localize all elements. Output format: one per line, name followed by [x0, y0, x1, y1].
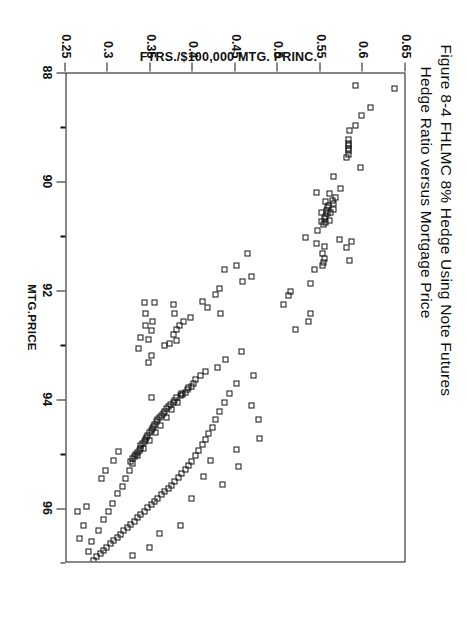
scatter-point	[199, 298, 205, 304]
scatter-point	[95, 527, 101, 533]
scatter-point	[302, 234, 308, 240]
scatter-point	[250, 372, 256, 378]
scatter-point	[233, 446, 239, 452]
scatter-point	[391, 85, 397, 91]
scatter-point	[308, 280, 314, 286]
scatter-point	[74, 508, 80, 514]
scatter-point	[226, 390, 232, 396]
scatter-point	[90, 557, 96, 561]
x-tick-minor	[60, 126, 65, 127]
scatter-point	[126, 467, 132, 473]
scatter-point	[185, 384, 191, 390]
scatter-point	[212, 416, 218, 422]
scatter-point	[110, 457, 116, 463]
scatter-point	[122, 475, 128, 481]
x-tick-major	[56, 508, 65, 509]
scatter-point	[80, 522, 86, 528]
scatter-point	[308, 310, 314, 316]
scatter-point	[142, 310, 148, 316]
scatter-point	[187, 314, 193, 320]
scatter-point	[221, 399, 227, 405]
figure-title-line-2: Hedge Ratio versus Mortgage Price	[415, 44, 435, 396]
scatter-point	[145, 359, 151, 365]
scatter-point	[76, 535, 82, 541]
scatter-point	[346, 257, 352, 263]
scatter-point	[140, 445, 146, 451]
x-tick-major	[56, 290, 65, 291]
scatter-point	[359, 112, 365, 118]
scatter-point	[105, 508, 111, 514]
x-tick-major	[56, 399, 65, 400]
scatter-point	[170, 301, 176, 307]
scatter-point	[352, 82, 358, 88]
scatter-point	[255, 416, 261, 422]
x-axis-title: MTG.PRICE	[25, 72, 37, 562]
scatter-point	[145, 336, 151, 342]
x-tick-label: 88	[39, 65, 53, 79]
scatter-point	[217, 310, 223, 316]
scatter-point	[343, 244, 349, 250]
scatter-point	[337, 185, 343, 191]
scatter-point	[209, 424, 215, 430]
scatter-point	[318, 218, 324, 224]
scatter-point	[244, 250, 250, 256]
scatter-point	[146, 437, 152, 443]
scatter-point	[207, 457, 213, 463]
scatter-point	[119, 483, 125, 489]
scatter-point	[326, 190, 332, 196]
y-tick-major	[404, 62, 405, 71]
scatter-point	[152, 429, 158, 435]
scatter-point	[83, 503, 89, 509]
scatter-point	[177, 522, 183, 528]
scatter-point	[235, 463, 241, 469]
rotated-figure-stage: Figure 8-4 FHLMC 8% Hedge Using Note Fut…	[0, 0, 467, 639]
scatter-point	[163, 414, 169, 420]
scatter-point	[168, 406, 174, 412]
scatter-point	[100, 516, 106, 522]
scatter-point	[129, 552, 135, 558]
scatter-point	[98, 475, 104, 481]
scatter-point	[223, 356, 229, 362]
scatter-point	[172, 310, 178, 316]
scatter-point	[114, 490, 120, 496]
scatter-point	[346, 127, 352, 133]
scatter-point	[221, 266, 227, 272]
scatter-point	[280, 301, 286, 307]
scatter-point	[233, 262, 239, 268]
scatter-point	[157, 422, 163, 428]
scatter-point	[148, 394, 154, 400]
scatter-point	[88, 538, 94, 544]
x-tick-minor	[60, 344, 65, 345]
scatter-point	[336, 236, 342, 242]
scatter-point	[189, 495, 195, 501]
scatter-point	[115, 448, 121, 454]
scatter-point	[285, 292, 291, 298]
scatter-point	[179, 391, 185, 397]
scatter-point	[314, 227, 320, 233]
scatter-point	[129, 460, 135, 466]
scatter-point	[311, 266, 317, 272]
scatter-point	[135, 345, 141, 351]
scatter-point	[216, 408, 222, 414]
scatter-point	[174, 399, 180, 405]
scatter-point	[102, 467, 108, 473]
scatter-point	[138, 334, 144, 340]
scatter-points-layer	[66, 73, 404, 561]
scatter-point	[149, 318, 155, 324]
scatter-point	[161, 342, 167, 348]
y-tick-label: 0.65	[398, 34, 412, 58]
scatter-point	[219, 481, 225, 487]
scatter-point	[214, 364, 220, 370]
scatter-point	[248, 273, 254, 279]
scatter-point	[319, 262, 325, 268]
scatter-point	[248, 402, 254, 408]
scatter-point	[173, 337, 179, 343]
scatter-point	[134, 452, 140, 458]
x-tick-minor	[60, 235, 65, 236]
scatter-point	[292, 326, 298, 332]
x-tick-major	[56, 72, 65, 73]
scatter-point	[240, 278, 246, 284]
scatter-point	[141, 299, 147, 305]
scatter-point	[85, 548, 91, 554]
x-tick-label: 96	[39, 501, 53, 515]
